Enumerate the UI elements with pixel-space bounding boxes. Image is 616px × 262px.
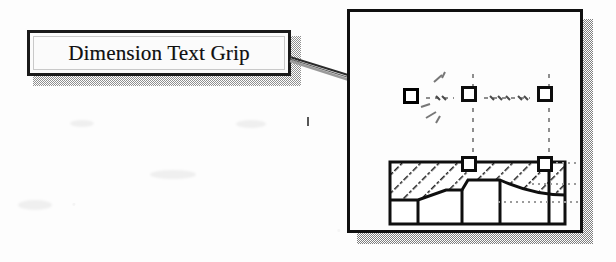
- panel-drawing-canvas: [350, 12, 580, 230]
- callout-label[interactable]: Dimension Text Grip: [27, 30, 295, 80]
- grip-dimension-line-mid[interactable]: [461, 86, 477, 102]
- panel-frame: [347, 9, 583, 233]
- scan-smudge: [236, 120, 266, 128]
- scan-artifact-tick: [307, 117, 309, 126]
- scan-smudge: [70, 120, 94, 127]
- grip-extension-right[interactable]: [537, 156, 553, 172]
- drawing-panel: [347, 9, 593, 244]
- grip-extension-left[interactable]: [461, 156, 477, 172]
- figure-root: Dimension Text Grip: [0, 0, 616, 262]
- scan-smudge: [18, 200, 52, 210]
- grip-dimension-text[interactable]: [403, 88, 419, 104]
- grip-selection-sparks: [421, 72, 445, 123]
- scan-smudge: [150, 170, 196, 179]
- callout-box[interactable]: Dimension Text Grip: [27, 30, 291, 76]
- grip-dimension-line-right[interactable]: [537, 86, 553, 102]
- callout-label-text: Dimension Text Grip: [68, 43, 250, 64]
